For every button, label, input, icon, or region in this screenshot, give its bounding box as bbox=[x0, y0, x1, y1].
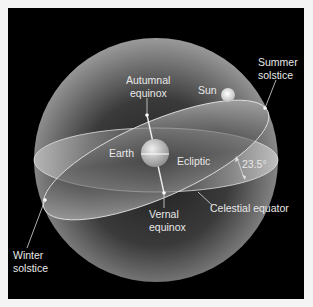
celestial-sphere-diagram: Summersolstice Autumnalequinox Sun Earth… bbox=[0, 0, 313, 307]
earth-label: Earth bbox=[109, 147, 134, 159]
sun-icon bbox=[221, 88, 235, 102]
winter-leader bbox=[27, 200, 45, 248]
winter-solstice-label: Wintersolstice bbox=[13, 249, 48, 274]
summer-leader bbox=[265, 80, 276, 108]
autumnal-equinox-point bbox=[145, 113, 149, 117]
sun-label: Sun bbox=[198, 84, 217, 96]
summer-solstice-label: Summersolstice bbox=[258, 56, 298, 81]
ecliptic-label: Ecliptic bbox=[177, 155, 210, 167]
earth-icon bbox=[141, 139, 169, 167]
autumnal-equinox-label: Autumnalequinox bbox=[126, 74, 170, 99]
vernal-equinox-point bbox=[162, 191, 166, 195]
angle-label: 23.5° bbox=[242, 158, 267, 170]
celestial-equator-label: Celestial equator bbox=[210, 202, 289, 214]
